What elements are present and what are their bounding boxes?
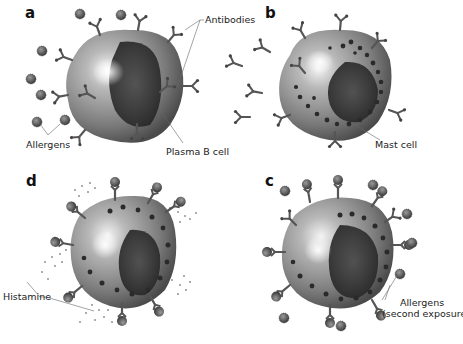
- panel-letter-c: c: [265, 172, 274, 190]
- panel-letter-b: b: [265, 4, 276, 22]
- label-histamine: Histamine: [3, 291, 51, 302]
- label-allergens-second-line1: Allergens: [382, 297, 462, 308]
- panel-d-artwork: [41, 177, 197, 326]
- panel-letter-d: d: [26, 172, 37, 190]
- diagram-artwork: [0, 0, 463, 344]
- panel-a-artwork: [26, 9, 199, 147]
- label-antibodies: Antibodies: [205, 14, 255, 25]
- label-allergens-second-line2: (second exposure): [382, 308, 462, 319]
- label-allergens-second-exposure: Allergens (second exposure): [382, 297, 462, 319]
- free-antibodies: [224, 38, 273, 124]
- label-plasma-b-cell: Plasma B cell: [166, 146, 229, 157]
- panel-letter-a: a: [25, 4, 35, 22]
- label-mast-cell: Mast cell: [375, 139, 417, 150]
- allergy-mechanism-diagram: a b d c Antibodies Allergens Plasma B ce…: [0, 0, 463, 344]
- panel-b-artwork: [272, 13, 406, 148]
- label-allergens: Allergens: [26, 139, 70, 150]
